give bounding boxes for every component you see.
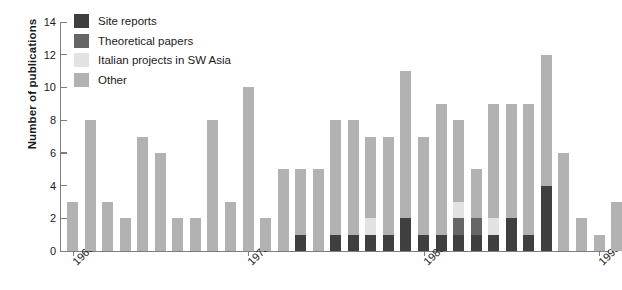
- bar-1969: [85, 120, 96, 251]
- bar-1995: [541, 55, 552, 251]
- y-tick-2: 2: [22, 212, 66, 224]
- bar-segment-other: [453, 120, 464, 202]
- legend-item-label: Italian projects in SW Asia: [98, 53, 231, 67]
- bar-segment-other: [400, 71, 411, 218]
- bar-1975: [190, 218, 201, 251]
- bar-1973: [155, 153, 166, 251]
- bar-1977: [225, 202, 236, 251]
- bar-segment-other: [418, 137, 429, 235]
- legend-item-label: Other: [98, 73, 127, 87]
- bar-segment-other: [172, 218, 183, 251]
- bar-segment-other: [278, 169, 289, 251]
- bar-segment-ital: [453, 202, 464, 218]
- y-tick-0: 0: [22, 245, 66, 257]
- bar-segment-other: [611, 202, 622, 251]
- bar-segment-site: [453, 235, 464, 251]
- bar-segment-other: [102, 202, 113, 251]
- bar-segment-site: [523, 235, 534, 251]
- y-tick-label: 6: [26, 147, 56, 159]
- bar-1987: [400, 71, 411, 251]
- bar-1978: [243, 87, 254, 251]
- legend-item-label: Site reports: [98, 14, 157, 28]
- bar-1988: [418, 137, 429, 251]
- bar-1982: [313, 169, 324, 251]
- x-axis-line: [60, 251, 609, 252]
- bar-segment-site: [383, 235, 394, 251]
- bar-1986: [383, 137, 394, 251]
- bar-segment-site: [506, 218, 517, 251]
- bar-1991: [471, 169, 482, 251]
- bar-1993: [506, 104, 517, 251]
- bar-1998-extra: [611, 202, 622, 251]
- y-tick-4: 4: [22, 180, 66, 192]
- bar-segment-other: [436, 104, 447, 235]
- bar-segment-other: [207, 120, 218, 251]
- y-tick-label: 8: [26, 114, 56, 126]
- bar-segment-other: [471, 169, 482, 218]
- bar-segment-other: [576, 218, 587, 251]
- bar-segment-other: [541, 55, 552, 186]
- bar-1970: [102, 202, 113, 251]
- bar-segment-other: [348, 120, 359, 235]
- bar-segment-other: [155, 153, 166, 251]
- bar-segment-other: [330, 120, 341, 235]
- bar-segment-other: [260, 218, 271, 251]
- bar-1979: [260, 218, 271, 251]
- y-tick-label: 2: [26, 212, 56, 224]
- bar-1992: [488, 104, 499, 251]
- bar-segment-other: [594, 235, 605, 251]
- bar-1990: [453, 120, 464, 251]
- bar-segment-site: [541, 186, 552, 251]
- bar-1997-extra: [594, 235, 605, 251]
- bar-segment-other: [365, 137, 376, 219]
- bar-segment-site: [418, 235, 429, 251]
- y-tick-label: 12: [26, 49, 56, 61]
- bar-segment-ital: [488, 218, 499, 234]
- bar-segment-site: [471, 235, 482, 251]
- bar-1997: [576, 218, 587, 251]
- bar-1972: [137, 137, 148, 252]
- bar-segment-other: [558, 153, 569, 251]
- y-tick-10: 10: [22, 81, 66, 93]
- bar-segment-other: [120, 218, 131, 251]
- y-tick-8: 8: [22, 114, 66, 126]
- bar-1985: [365, 137, 376, 251]
- bar-series-group: [61, 14, 609, 251]
- bar-segment-other: [85, 120, 96, 251]
- bar-segment-theo: [453, 218, 464, 234]
- bar-segment-other: [137, 137, 148, 252]
- y-tick-label: 0: [26, 245, 56, 257]
- bar-1996: [558, 153, 569, 251]
- bar-segment-ital: [365, 218, 376, 234]
- bar-1980: [278, 169, 289, 251]
- y-tick-label: 4: [26, 180, 56, 192]
- y-tick-12: 12: [22, 49, 66, 61]
- bar-segment-other: [190, 218, 201, 251]
- bar-segment-other: [243, 87, 254, 251]
- bar-1976: [207, 120, 218, 251]
- bar-1974: [172, 218, 183, 251]
- bar-segment-other: [506, 104, 517, 219]
- y-tick-label: 10: [26, 81, 56, 93]
- y-tick-14: 14: [22, 16, 66, 28]
- bar-segment-site: [365, 235, 376, 251]
- legend-swatch-icon: [74, 34, 89, 48]
- bar-segment-other: [67, 202, 78, 251]
- bar-segment-site: [400, 218, 411, 251]
- plot-area: 02468101214 1968197819881998: [60, 14, 609, 251]
- bar-1981: [295, 169, 306, 251]
- bar-segment-other: [295, 169, 306, 234]
- y-tick-label: 14: [26, 16, 56, 28]
- bar-segment-site: [436, 235, 447, 251]
- y-tick-6: 6: [22, 147, 66, 159]
- bar-segment-other: [383, 137, 394, 235]
- legend-item-label: Theoretical papers: [98, 34, 193, 48]
- bar-1971: [120, 218, 131, 251]
- bar-segment-other: [488, 104, 499, 219]
- bar-segment-site: [295, 235, 306, 251]
- bar-segment-site: [488, 235, 499, 251]
- bar-segment-site: [348, 235, 359, 251]
- legend-swatch-icon: [74, 73, 89, 87]
- legend-swatch-icon: [74, 53, 89, 67]
- bar-1968: [67, 202, 78, 251]
